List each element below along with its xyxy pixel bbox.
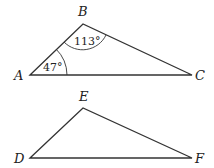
diagram-canvas: A B C 47° 113° D E F: [0, 0, 214, 168]
triangle-def: D E F: [13, 89, 205, 166]
vertex-label-f: F: [194, 151, 205, 166]
vertex-label-d: D: [13, 151, 25, 166]
vertex-label-e: E: [78, 89, 89, 104]
vertex-label-c: C: [195, 68, 205, 83]
vertex-label-a: A: [13, 68, 23, 83]
triangle-def-shape: [30, 108, 192, 158]
angle-value-b: 113°: [74, 35, 101, 48]
triangle-abc: A B C 47° 113°: [13, 4, 205, 83]
vertex-label-b: B: [77, 4, 88, 19]
angle-value-a: 47°: [43, 61, 63, 74]
